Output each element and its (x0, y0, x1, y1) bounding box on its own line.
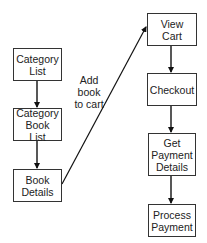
node-checkout: Checkout (147, 73, 197, 106)
node-get-payment-details: Get Payment Details (148, 133, 196, 176)
node-category-list: Category List (13, 48, 62, 81)
node-view-cart: View Cart (147, 13, 197, 46)
node-process-payment: Process Payment (148, 204, 196, 237)
edge-label-add-book-to-cart: Add book to cart (74, 74, 104, 110)
node-category-book-list: Category Book List (13, 108, 62, 141)
node-book-details: Book Details (13, 169, 62, 202)
